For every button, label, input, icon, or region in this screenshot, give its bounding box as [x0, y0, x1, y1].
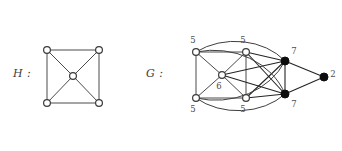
vertex-label-g-center: 6: [216, 81, 221, 91]
vertex-g-right-bottom: [281, 90, 289, 98]
edge-g-center-g-right-top: [222, 61, 285, 75]
vertex-g-top-mid: [243, 49, 250, 56]
vertex-h-bottom-right: [96, 100, 103, 107]
vertex-label-g-far-right: 2: [330, 69, 335, 79]
vertex-g-bottom-left: [193, 95, 200, 102]
edge-h-bottom-right-h-center: [73, 76, 99, 103]
vertex-g-right-top: [281, 57, 289, 65]
edges-layer: [47, 41, 324, 110]
graph-h-caption: H :: [13, 67, 31, 80]
edge-g-right-top-g-far-right: [285, 61, 324, 77]
vertex-label-g-bottom-left: 5: [190, 104, 195, 114]
edge-h-top-left-h-center: [47, 50, 73, 76]
graph-g-caption: G :: [146, 67, 164, 80]
vertex-label-g-top-left: 5: [190, 35, 195, 45]
vertex-h-bottom-left: [44, 100, 51, 107]
edge-g-bottom-mid-g-right-bottom: [246, 94, 285, 98]
vertex-g-bottom-mid: [243, 95, 250, 102]
graph-canvas: 55556772: [0, 0, 342, 151]
edge-g-right-bottom-g-far-right: [285, 77, 324, 94]
vertex-h-top-left: [44, 47, 51, 54]
edge-g-top-left-g-center: [196, 52, 222, 75]
vertex-g-top-left: [193, 49, 200, 56]
vertex-label-g-right-bottom: 7: [291, 99, 296, 109]
vertex-h-center: [70, 73, 77, 80]
vertex-g-center: [219, 72, 226, 79]
edge-h-top-right-h-center: [73, 50, 99, 76]
vertex-label-g-top-mid: 5: [240, 35, 245, 45]
vertex-g-far-right: [320, 73, 328, 81]
vertex-label-g-bottom-mid: 5: [240, 104, 245, 114]
vertex-label-g-right-top: 7: [291, 46, 296, 56]
edge-h-bottom-left-h-center: [47, 76, 73, 103]
graph-figure: H : G : 55556772: [0, 0, 342, 151]
vertex-h-top-right: [96, 47, 103, 54]
